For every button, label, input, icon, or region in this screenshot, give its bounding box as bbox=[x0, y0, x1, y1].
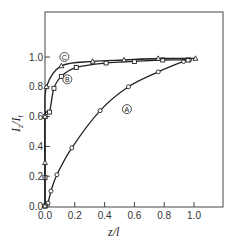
x-tick-label: 0.6 bbox=[127, 210, 141, 221]
triangle-marker bbox=[90, 59, 95, 63]
circle-marker bbox=[55, 173, 59, 177]
label-text: A bbox=[125, 106, 130, 113]
y-tick-label: 0.0 bbox=[29, 201, 43, 212]
triangle-marker bbox=[193, 56, 198, 60]
svg-text:Iz/It: Iz/It bbox=[9, 115, 25, 133]
y-tick-label: 0.4 bbox=[29, 141, 43, 152]
x-axis-label: z/l bbox=[107, 225, 120, 239]
y-tick-label: 0.2 bbox=[29, 171, 43, 182]
triangle-marker bbox=[43, 160, 48, 164]
chart: 0.00.20.40.60.81.0 0.00.20.40.60.81.0 AB… bbox=[0, 0, 231, 245]
x-tick-label: 0.0 bbox=[38, 210, 52, 221]
plot-frame bbox=[45, 12, 223, 207]
y-tick-label: 0.6 bbox=[29, 111, 43, 122]
square-marker bbox=[52, 86, 56, 90]
x-tick-label: 0.2 bbox=[68, 210, 82, 221]
square-marker bbox=[104, 61, 108, 65]
curve-label-c: C bbox=[60, 53, 69, 62]
x-tick-label: 0.8 bbox=[157, 210, 171, 221]
curve-label-a: A bbox=[122, 105, 131, 114]
y-tick-label: 1.0 bbox=[29, 52, 43, 63]
label-text: C bbox=[62, 54, 67, 61]
y-tick-label: 0.8 bbox=[29, 81, 43, 92]
x-tick-label: 0.4 bbox=[98, 210, 112, 221]
circle-marker bbox=[98, 109, 102, 113]
x-tick-label: 1.0 bbox=[187, 210, 201, 221]
circle-marker bbox=[156, 70, 160, 74]
y-axis-ticks: 0.00.20.40.60.81.0 bbox=[29, 52, 50, 212]
curve-label-b: B bbox=[63, 75, 72, 84]
triangle-marker bbox=[59, 63, 64, 67]
circle-marker bbox=[49, 189, 53, 193]
circle-marker bbox=[126, 85, 130, 89]
y-axis-label: Iz/It bbox=[9, 115, 25, 133]
x-axis-ticks: 0.00.20.40.60.81.0 bbox=[38, 202, 201, 221]
label-text: B bbox=[65, 76, 70, 83]
square-marker bbox=[74, 65, 78, 69]
circle-marker bbox=[70, 146, 74, 150]
triangle-marker bbox=[122, 57, 127, 61]
square-marker bbox=[47, 110, 51, 114]
triangle-marker bbox=[156, 56, 161, 60]
